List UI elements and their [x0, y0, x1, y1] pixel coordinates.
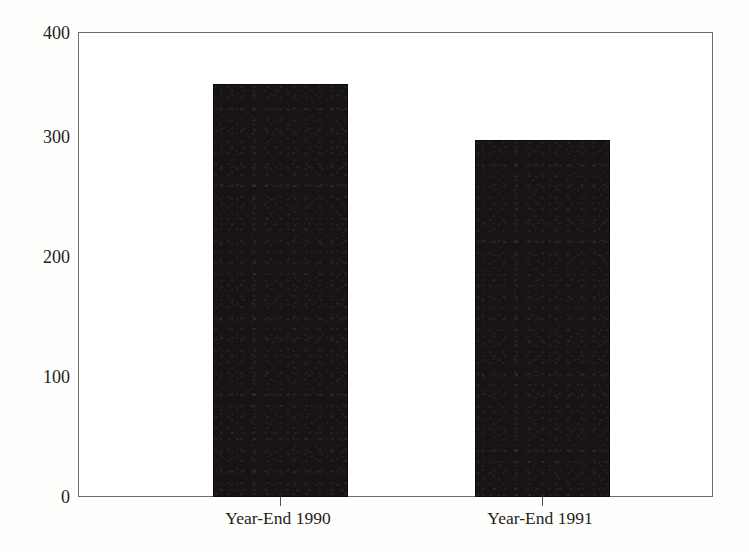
y-tick-label-100: 100 [12, 368, 70, 386]
x-tick-mark-1991 [542, 497, 543, 506]
y-tick-label-300: 300 [12, 128, 70, 146]
bar-year-end-1991 [475, 140, 610, 497]
y-tick-label-400: 400 [12, 24, 70, 42]
y-tick-label-0: 0 [12, 488, 70, 506]
x-tick-label-1991: Year-End 1991 [430, 508, 650, 529]
bar-year-end-1990 [213, 84, 348, 497]
y-axis-tick-labels: 400 300 200 100 0 [0, 0, 70, 552]
bar-chart-figure: Billions of Dollars 400 300 200 100 0 Ye… [0, 0, 749, 552]
x-tick-label-1990: Year-End 1990 [168, 508, 388, 529]
y-tick-label-200: 200 [12, 248, 70, 266]
plot-area [78, 32, 713, 497]
x-tick-mark-1990 [280, 497, 281, 506]
